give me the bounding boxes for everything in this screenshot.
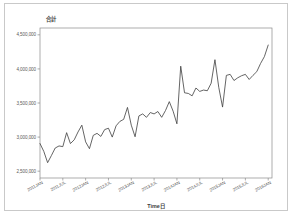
x-tick-label: 2012JUL <box>95 180 113 193</box>
plot-area-border <box>40 28 272 178</box>
x-tick-label: 2011JAN <box>26 180 43 192</box>
x-tick-label: 2014JUL <box>186 180 204 193</box>
y-tick-label: 2,500,000 <box>16 169 36 174</box>
y-axis-ticks: 2,500,0003,000,0003,500,0004,000,0004,50… <box>16 32 40 173</box>
x-tick-label: 2015JUL <box>232 180 250 193</box>
x-axis-ticks: 2011JAN2011JUL2012JAN2012JUL2013JAN2013J… <box>26 178 272 193</box>
x-tick-label: 2013JAN <box>117 180 135 193</box>
x-tick-label: 2011JUL <box>50 180 68 192</box>
plot-box <box>40 28 272 178</box>
y-tick-label: 3,500,000 <box>16 101 36 106</box>
x-tick-label: 2014JAN <box>163 180 181 193</box>
chart-plot-svg: 2,500,0003,000,0003,500,0004,000,0004,50… <box>0 0 292 218</box>
x-tick-label: 2012JAN <box>72 180 90 193</box>
y-tick-label: 3,000,000 <box>16 135 36 140</box>
x-axis-title: Time日 <box>147 203 164 210</box>
x-tick-label: 2016JAN <box>254 180 272 193</box>
y-tick-label: 4,000,000 <box>16 67 36 72</box>
x-tick-label: 2013JUL <box>141 180 159 193</box>
y-axis-title: 合計 <box>46 15 57 23</box>
x-tick-label: 2015JAN <box>209 180 227 193</box>
chart-figure: 2,500,0003,000,0003,500,0004,000,0004,50… <box>0 0 292 218</box>
y-tick-label: 4,500,000 <box>16 32 36 37</box>
